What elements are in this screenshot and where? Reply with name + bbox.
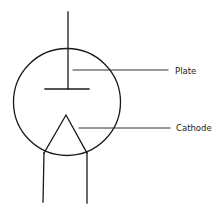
diode-tube-diagram: Plate Cathode	[0, 0, 223, 213]
cathode-label: Cathode	[176, 123, 212, 133]
cathode-filament	[44, 115, 87, 153]
tube-envelope	[14, 49, 121, 156]
plate-label: Plate	[175, 66, 196, 76]
cathode-lead-left	[43, 153, 44, 202]
